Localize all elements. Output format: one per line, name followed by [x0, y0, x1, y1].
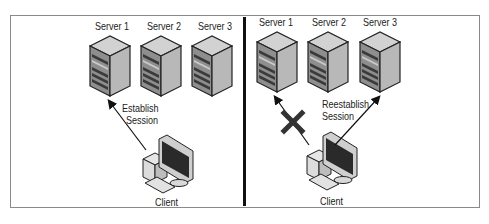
- reestablish-session-arrow: [335, 97, 379, 145]
- establish-session-arrow: [109, 101, 146, 150]
- x-mark-icon: [284, 113, 302, 131]
- connection-lines: [0, 0, 489, 224]
